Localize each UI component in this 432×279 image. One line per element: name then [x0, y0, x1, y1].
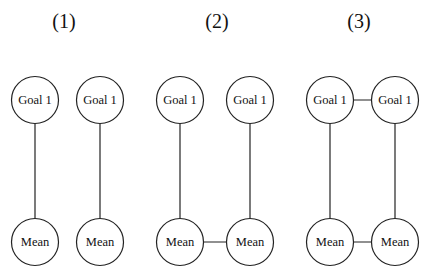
panel-label-3: (3): [329, 8, 389, 34]
node-label-p2-mean-a: Mean: [150, 234, 210, 250]
node-label-p1-mean-a: Mean: [5, 234, 65, 250]
panel-label-1: (1): [34, 8, 94, 34]
node-label-p3-mean-a: Mean: [300, 234, 360, 250]
node-label-p3-goal-a: Goal 1: [300, 92, 360, 108]
node-label-p2-mean-b: Mean: [220, 234, 280, 250]
node-label-p1-goal-a: Goal 1: [5, 92, 65, 108]
node-label-p1-mean-b: Mean: [70, 234, 130, 250]
panel-label-2: (2): [187, 8, 247, 34]
node-label-p2-goal-b: Goal 1: [220, 92, 280, 108]
node-label-p3-goal-b: Goal 1: [365, 92, 425, 108]
node-label-p3-mean-b: Mean: [365, 234, 425, 250]
node-label-p2-goal-a: Goal 1: [150, 92, 210, 108]
node-label-p1-goal-b: Goal 1: [70, 92, 130, 108]
